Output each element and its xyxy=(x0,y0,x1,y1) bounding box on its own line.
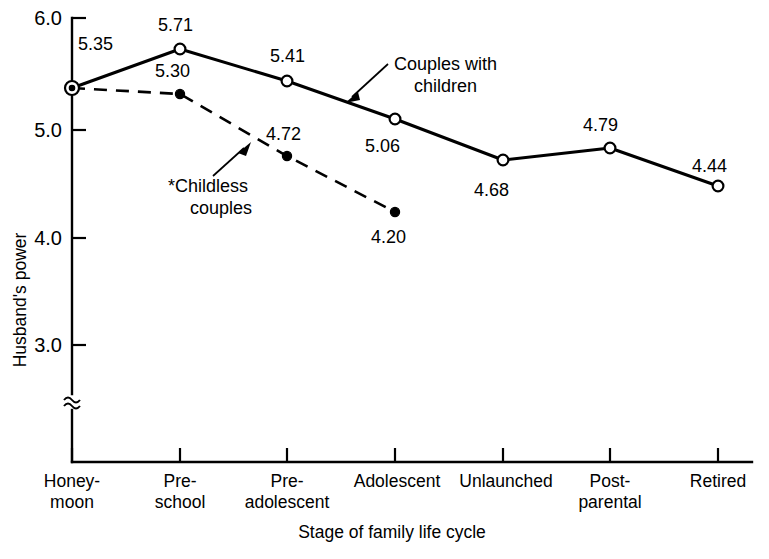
axis-break-icon xyxy=(64,398,80,409)
value-label-preschool: 5.71 xyxy=(158,15,193,35)
marker-adolescent xyxy=(390,114,401,125)
x-label-honeymoon-line1: Honey- xyxy=(44,471,101,491)
marker-preschool xyxy=(175,44,186,55)
x-label-honeymoon-line2: moon xyxy=(50,492,94,512)
x-label-adolescent: Adolescent xyxy=(354,471,441,491)
x-category-labels: Honey- moon Pre- school Pre- adolescent … xyxy=(44,471,746,512)
marker-honeymoon-inner xyxy=(69,85,74,90)
value-label-adolescent: 5.06 xyxy=(365,136,400,156)
y-tick-label-3: 3.0 xyxy=(34,334,62,356)
annotation-couples-arrowhead xyxy=(345,92,360,103)
y-tick-label-5: 5.0 xyxy=(34,119,62,141)
value-label-childless-adolescent: 4.20 xyxy=(371,227,406,247)
x-ticks xyxy=(72,448,718,462)
x-label-preadolescent-line2: adolescent xyxy=(245,492,330,512)
marker-retired xyxy=(713,181,724,192)
y-tick-label-6: 6.0 xyxy=(34,7,62,29)
y-axis-title: Husband's power xyxy=(10,232,30,367)
x-label-postparental-line2: parental xyxy=(578,492,641,512)
line-chart-svg: 6.0 5.0 4.0 3.0 Husband's power Honey- m… xyxy=(0,0,769,559)
value-label-honeymoon: 5.35 xyxy=(78,34,113,54)
annotation-couples-line2: children xyxy=(414,76,477,96)
x-label-postparental-line1: Post- xyxy=(590,471,631,491)
annotation-childless-arrowhead xyxy=(238,142,251,156)
annotation-childless-line2: couples xyxy=(190,198,252,218)
x-label-preschool-line2: school xyxy=(155,492,206,512)
marker-childless-adolescent xyxy=(390,207,399,216)
annotation-childless-line1: *Childless xyxy=(168,176,248,196)
value-label-preadolescent: 5.41 xyxy=(270,46,305,66)
annotation-couples-with-children: Couples with children xyxy=(345,54,497,103)
x-label-unlaunched: Unlaunched xyxy=(459,471,552,491)
marker-childless-preadolescent xyxy=(282,151,291,160)
marker-postparental xyxy=(605,143,616,154)
x-axis-title: Stage of family life cycle xyxy=(298,522,486,542)
value-label-childless-preadolescent: 4.72 xyxy=(266,124,301,144)
marker-shared-honeymoon xyxy=(65,81,79,95)
value-label-unlaunched: 4.68 xyxy=(474,180,509,200)
marker-childless-preschool xyxy=(175,89,184,98)
marker-preadolescent xyxy=(282,76,293,87)
y-tick-label-4: 4.0 xyxy=(34,227,62,249)
chart-figure: 6.0 5.0 4.0 3.0 Husband's power Honey- m… xyxy=(0,0,769,559)
x-label-preadolescent-line1: Pre- xyxy=(270,471,303,491)
value-label-retired: 4.44 xyxy=(692,156,727,176)
marker-unlaunched xyxy=(498,155,509,166)
x-label-preschool-line1: Pre- xyxy=(163,471,196,491)
axes xyxy=(64,18,752,462)
x-label-retired: Retired xyxy=(690,471,746,491)
annotation-couples-line1: Couples with xyxy=(394,54,497,74)
value-label-postparental: 4.79 xyxy=(583,115,618,135)
annotation-childless-couples: *Childless couples xyxy=(168,142,252,218)
value-label-childless-preschool: 5.30 xyxy=(155,61,190,81)
annotation-couples-leader-line xyxy=(352,64,388,97)
y-tick-labels: 6.0 5.0 4.0 3.0 xyxy=(34,7,62,356)
